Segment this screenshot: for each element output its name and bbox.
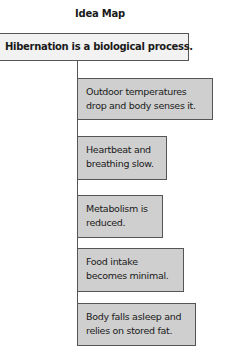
node-text-line: drop and body senses it.: [86, 99, 212, 113]
idea-node-1: Outdoor temperatures drop and body sense…: [77, 78, 213, 120]
node-text-line: Body falls asleep and: [86, 310, 195, 324]
idea-node-3: Metabolism is reduced.: [77, 195, 163, 238]
node-text-line: Food intake: [86, 255, 183, 269]
diagram-title: Idea Map: [0, 8, 200, 19]
node-text-line: becomes minimal.: [86, 269, 183, 283]
root-node: Hibernation is a biological process.: [0, 33, 189, 61]
node-text-line: reduced.: [86, 216, 162, 230]
node-text-line: Outdoor temperatures: [86, 85, 212, 99]
node-text-line: relies on stored fat.: [86, 324, 195, 338]
idea-node-2: Heartbeat and breathing slow.: [77, 136, 167, 180]
node-text-line: Heartbeat and: [86, 143, 166, 157]
node-text-line: Metabolism is: [86, 202, 162, 216]
node-text-line: breathing slow.: [86, 157, 166, 171]
idea-node-5: Body falls asleep and relies on stored f…: [77, 303, 196, 346]
idea-node-4: Food intake becomes minimal.: [77, 248, 184, 292]
